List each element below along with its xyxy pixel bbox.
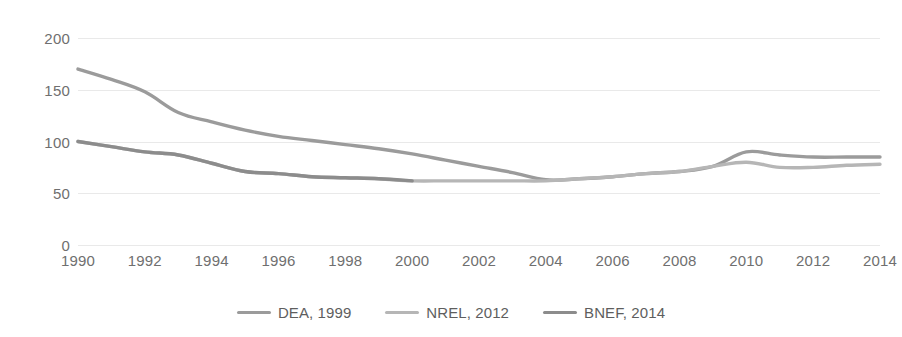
x-tick-label: 1990 (61, 252, 95, 269)
line-chart: 050100150200 199019921994199619982000200… (0, 0, 902, 337)
x-axis: 1990199219941996199820002002200420062008… (0, 252, 902, 278)
y-tick-label: 50 (0, 185, 70, 202)
gridline (78, 245, 880, 246)
legend-line-swatch (237, 311, 271, 314)
x-tick-label: 1994 (195, 252, 229, 269)
legend-line-swatch (543, 311, 577, 314)
y-tick-label: 100 (0, 133, 70, 150)
y-tick-label: 150 (0, 81, 70, 98)
x-tick-label: 1992 (128, 252, 162, 269)
y-tick-label: 0 (0, 237, 70, 254)
x-tick-label: 2004 (529, 252, 563, 269)
y-axis: 050100150200 (0, 0, 70, 337)
legend-label: NREL, 2012 (426, 304, 509, 321)
x-tick-label: 2002 (462, 252, 496, 269)
x-tick-label: 1998 (328, 252, 362, 269)
legend-item[interactable]: BNEF, 2014 (543, 304, 665, 321)
y-tick-label: 200 (0, 30, 70, 47)
legend-line-swatch (385, 311, 419, 314)
plot-area (78, 38, 880, 245)
x-tick-label: 2006 (596, 252, 630, 269)
x-tick-label: 2014 (863, 252, 897, 269)
x-tick-label: 2010 (729, 252, 763, 269)
legend-label: BNEF, 2014 (584, 304, 665, 321)
legend-item[interactable]: NREL, 2012 (385, 304, 509, 321)
x-tick-label: 2012 (796, 252, 830, 269)
x-tick-label: 1996 (261, 252, 295, 269)
chart-legend: DEA, 1999NREL, 2012BNEF, 2014 (0, 298, 902, 326)
legend-item[interactable]: DEA, 1999 (237, 304, 351, 321)
series-layer (78, 38, 880, 245)
legend-label: DEA, 1999 (278, 304, 351, 321)
x-tick-label: 2000 (395, 252, 429, 269)
x-tick-label: 2008 (662, 252, 696, 269)
